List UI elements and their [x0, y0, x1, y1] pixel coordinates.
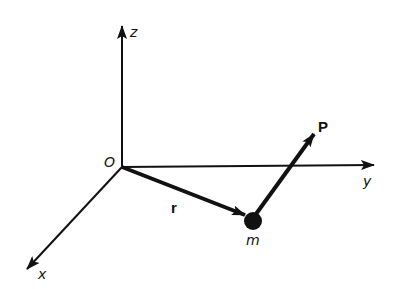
position-vector-r	[122, 167, 245, 215]
p-vector-label: P	[318, 118, 328, 135]
x-axis	[27, 167, 122, 269]
origin-label: O	[104, 154, 115, 170]
mass-label: m	[246, 232, 260, 248]
momentum-vector-p	[256, 134, 314, 214]
coordinate-diagram: z y x O r P m	[0, 0, 398, 289]
r-vector-label: r	[171, 199, 177, 216]
particle-mass	[244, 212, 262, 230]
z-axis-label: z	[129, 24, 138, 40]
y-axis-label: y	[362, 173, 372, 189]
x-axis-label: x	[37, 266, 47, 282]
y-axis	[122, 165, 374, 167]
